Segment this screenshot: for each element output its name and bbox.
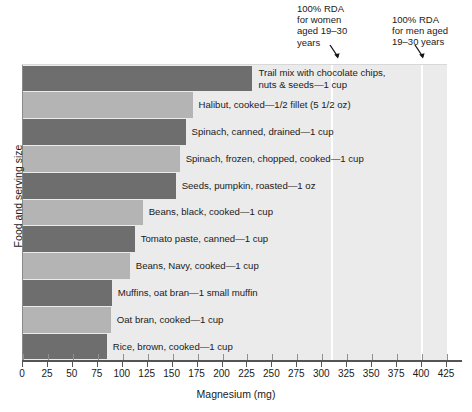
arrow-down-icon-women — [328, 44, 342, 60]
x-tick — [246, 362, 247, 367]
bar-row[interactable]: Halibut, cooked—1/2 fillet (5 1/2 oz) — [23, 92, 447, 119]
x-tick — [97, 362, 98, 367]
x-tick-label: 375 — [383, 368, 409, 379]
x-tick — [197, 362, 198, 367]
annotation-rda-men: 100% RDA for men aged 19–30 years — [392, 14, 462, 48]
x-tick-label: 125 — [134, 368, 160, 379]
x-tick — [421, 362, 422, 367]
bar-row[interactable]: Spinach, canned, drained—1 cup — [23, 119, 447, 146]
bar-label: Oat bran, cooked—1 cup — [117, 314, 224, 325]
bar[interactable] — [23, 173, 176, 199]
x-tick-label: 50 — [59, 368, 85, 379]
x-tick-label: 100 — [109, 368, 135, 379]
bar[interactable] — [23, 92, 193, 118]
x-tick — [446, 362, 447, 367]
x-tick-label: 0 — [9, 368, 35, 379]
x-tick — [371, 362, 372, 367]
bar-label: Seeds, pumpkin, roasted—1 oz — [182, 180, 316, 191]
bar[interactable] — [23, 334, 107, 360]
x-tick-label: 275 — [283, 368, 309, 379]
bar[interactable] — [23, 66, 252, 92]
annotation-rda-women: 100% RDA for women aged 19–30 years — [297, 3, 363, 48]
x-tick — [147, 362, 148, 367]
x-tick — [47, 362, 48, 367]
bar[interactable] — [23, 200, 143, 226]
x-tick-label: 75 — [84, 368, 110, 379]
x-axis-title: Magnesium (mg) — [0, 388, 472, 400]
x-tick — [122, 362, 123, 367]
x-tick — [296, 362, 297, 367]
bar-row[interactable]: Tomato paste, canned—1 cup — [23, 226, 447, 253]
bar-label: Beans, Navy, cooked—1 cup — [136, 260, 259, 271]
x-tick-label: 200 — [209, 368, 235, 379]
x-tick-label: 350 — [358, 368, 384, 379]
magnesium-bar-chart: 100% RDA for women aged 19–30 years 100%… — [0, 0, 472, 412]
bar-label: Beans, black, cooked—1 cup — [149, 207, 273, 218]
x-tick — [346, 362, 347, 367]
x-tick-label: 425 — [433, 368, 459, 379]
x-tick-label: 250 — [258, 368, 284, 379]
bar[interactable] — [23, 226, 135, 252]
bar-row[interactable]: Muffins, oat bran—1 small muffin — [23, 280, 447, 307]
arrow-down-icon-men — [413, 44, 427, 60]
x-tick-label: 150 — [159, 368, 185, 379]
bar-row[interactable]: Beans, Navy, cooked—1 cup — [23, 253, 447, 280]
x-tick-label: 300 — [308, 368, 334, 379]
bar-row[interactable]: Rice, brown, cooked—1 cup — [23, 333, 447, 360]
bar[interactable] — [23, 146, 180, 172]
x-tick-label: 325 — [333, 368, 359, 379]
x-tick — [172, 362, 173, 367]
bar-label: Tomato paste, canned—1 cup — [141, 234, 268, 245]
bar-row[interactable]: Oat bran, cooked—1 cup — [23, 306, 447, 333]
y-axis-title: Food and serving size — [12, 116, 24, 276]
x-tick-label: 25 — [34, 368, 60, 379]
x-tick — [321, 362, 322, 367]
bar-label: Muffins, oat bran—1 small muffin — [118, 287, 258, 298]
x-tick — [22, 362, 23, 367]
bar-label: Trail mix with chocolate chips, nuts & s… — [258, 67, 385, 90]
x-tick — [396, 362, 397, 367]
plot-area: Trail mix with chocolate chips, nuts & s… — [22, 65, 447, 360]
bar-label: Spinach, canned, drained—1 cup — [192, 126, 334, 137]
bar-row[interactable]: Seeds, pumpkin, roasted—1 oz — [23, 172, 447, 199]
bar-row[interactable]: Trail mix with chocolate chips, nuts & s… — [23, 65, 447, 92]
bar[interactable] — [23, 253, 130, 279]
bar-label: Spinach, frozen, chopped, cooked—1 cup — [186, 153, 364, 164]
x-tick-label: 175 — [184, 368, 210, 379]
bar[interactable] — [23, 119, 186, 145]
x-tick-label: 225 — [233, 368, 259, 379]
bar-label: Halibut, cooked—1/2 fillet (5 1/2 oz) — [199, 100, 351, 111]
bar[interactable] — [23, 280, 112, 306]
bar-row[interactable]: Spinach, frozen, chopped, cooked—1 cup — [23, 145, 447, 172]
bar[interactable] — [23, 307, 111, 333]
x-tick-label: 400 — [408, 368, 434, 379]
bar-label: Rice, brown, cooked—1 cup — [113, 341, 233, 352]
x-tick — [271, 362, 272, 367]
bar-row[interactable]: Beans, black, cooked—1 cup — [23, 199, 447, 226]
x-tick — [222, 362, 223, 367]
x-tick — [72, 362, 73, 367]
